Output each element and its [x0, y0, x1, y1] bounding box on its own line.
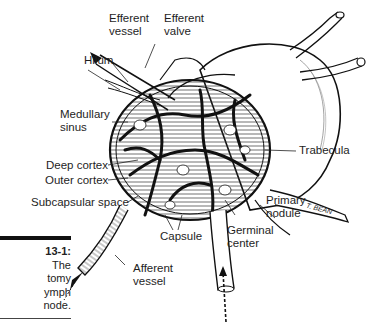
label-line: Efferent: [164, 12, 204, 25]
label-deep-cortex: Deep cortex: [46, 159, 108, 172]
caption-number: 13-1:: [45, 245, 71, 257]
label-medullary-sinus: Medullary sinus: [60, 108, 110, 134]
caption-line: ymph: [43, 286, 71, 300]
label-line: Primary: [266, 194, 306, 207]
label-subcapsular-space: Subcapsular space: [31, 196, 129, 209]
label-afferent-vessel: Afferent vessel: [133, 262, 173, 288]
label-line: vessel: [133, 275, 173, 288]
label-line: sinus: [60, 121, 110, 134]
label-hilum: Hilum: [84, 54, 113, 67]
label-line: center: [227, 237, 274, 250]
label-outer-cortex: Outer cortex: [45, 174, 108, 187]
label-primary-nodule: Primary nodule: [266, 194, 306, 220]
label-efferent-vessel: Efferent vessel: [109, 12, 149, 38]
label-line: Efferent: [109, 12, 149, 25]
label-germinal-center: Germinal center: [227, 224, 274, 250]
label-line: Germinal: [227, 224, 274, 237]
label-trabecula: Trabecula: [299, 144, 350, 157]
caption-line: tomy: [43, 272, 71, 286]
caption-line: The: [43, 259, 71, 273]
label-line: nodule: [266, 207, 306, 220]
caption-line: node.: [43, 299, 71, 313]
label-line: Medullary: [60, 108, 110, 121]
label-efferent-valve: Efferent valve: [164, 12, 204, 38]
figure-caption: 13-1: The tomy ymph node.: [43, 245, 71, 313]
label-line: Afferent: [133, 262, 173, 275]
caption-rule-bottom: [0, 318, 71, 319]
label-line: valve: [164, 25, 204, 38]
label-capsule: Capsule: [160, 230, 202, 243]
label-line: vessel: [109, 25, 149, 38]
caption-rule-top: [0, 236, 71, 240]
